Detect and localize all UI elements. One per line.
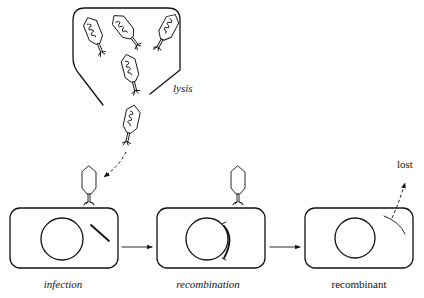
bacterial-chromosome-1 xyxy=(41,218,83,260)
excised-dna-fragment xyxy=(384,216,405,234)
lost-arrow xyxy=(392,183,405,218)
phage-recombination-diagram: lysis lost infection recombination recom… xyxy=(0,0,424,298)
lysis-label: lysis xyxy=(173,82,193,94)
phage-attached-2 xyxy=(231,166,245,205)
stage-label-infection: infection xyxy=(44,278,83,290)
phage-released-1 xyxy=(81,15,109,58)
infection-path-arrow xyxy=(104,152,126,177)
phage-released-4 xyxy=(120,53,144,96)
stage-label-recombinant: recombinant xyxy=(332,278,387,290)
phage-dna-recombining xyxy=(224,226,230,258)
phage-free xyxy=(119,104,141,147)
phage-attached-1 xyxy=(82,166,96,205)
phage-released-3 xyxy=(150,11,182,54)
cell-recombinant xyxy=(305,208,413,268)
cell-infection xyxy=(10,208,118,268)
lysing-cell-outline xyxy=(73,8,180,105)
phage-dna-fragment xyxy=(91,225,109,241)
phage-released-2 xyxy=(109,11,145,52)
stage-label-recombination: recombination xyxy=(176,278,240,290)
bacterial-chromosome-3 xyxy=(335,218,375,258)
lost-label: lost xyxy=(397,158,413,170)
